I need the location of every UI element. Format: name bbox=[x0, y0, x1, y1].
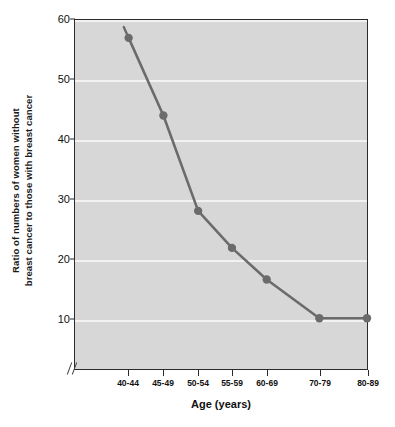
x-tick-mark-50-54 bbox=[198, 370, 199, 376]
y-axis-title-line-2: breast cancer to those with breast cance… bbox=[23, 94, 36, 286]
x-tick-label-40-44: 40-44 bbox=[117, 378, 139, 388]
data-series-ratio bbox=[75, 20, 367, 369]
plot-area bbox=[74, 19, 368, 370]
data-point-80-89 bbox=[363, 314, 371, 322]
chart-figure: Ratio of numbers of women without breast… bbox=[0, 0, 395, 427]
y-tick-label-10: 10 bbox=[44, 313, 70, 325]
x-tick-label-45-49: 45-49 bbox=[152, 378, 174, 388]
series-line bbox=[129, 38, 367, 318]
y-axis-title-line-1: Ratio of numbers of women without bbox=[11, 94, 24, 286]
axis-break-icon bbox=[66, 362, 84, 376]
x-tick-mark-60-69 bbox=[267, 370, 268, 376]
x-tick-mark-55-59 bbox=[232, 370, 233, 376]
x-tick-mark-40-44 bbox=[128, 370, 129, 376]
x-tick-label-50-54: 50-54 bbox=[187, 378, 209, 388]
data-point-70-79 bbox=[315, 314, 323, 322]
data-point-45-49 bbox=[159, 111, 167, 119]
x-axis-title: Age (years) bbox=[74, 398, 368, 410]
x-tick-label-70-79: 70-79 bbox=[309, 378, 331, 388]
data-point-40-44 bbox=[124, 34, 132, 42]
x-tick-label-60-69: 60-69 bbox=[256, 378, 278, 388]
y-tick-label-20: 20 bbox=[44, 253, 70, 265]
y-tick-label-40: 40 bbox=[44, 133, 70, 145]
x-tick-mark-80-89 bbox=[368, 370, 369, 376]
x-tick-mark-45-49 bbox=[163, 370, 164, 376]
x-tick-label-55-59: 55-59 bbox=[221, 378, 243, 388]
data-point-55-59 bbox=[228, 244, 236, 252]
y-axis-title: Ratio of numbers of women without breast… bbox=[0, 0, 46, 380]
x-tick-mark-70-79 bbox=[320, 370, 321, 376]
data-point-50-54 bbox=[194, 207, 202, 215]
x-tick-label-80-89: 80-89 bbox=[357, 378, 379, 388]
data-point-60-69 bbox=[263, 275, 271, 283]
y-tick-label-60: 60 bbox=[44, 13, 70, 25]
y-tick-label-30: 30 bbox=[44, 193, 70, 205]
y-tick-label-50: 50 bbox=[44, 73, 70, 85]
